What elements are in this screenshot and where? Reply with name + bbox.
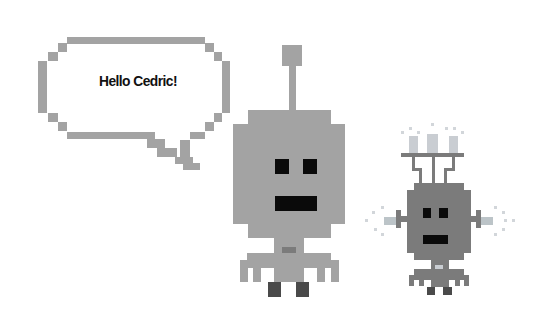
left-eye bbox=[275, 159, 289, 174]
antenna-wire bbox=[419, 168, 422, 183]
antenna-tip-center bbox=[427, 134, 438, 153]
left-foot bbox=[427, 287, 435, 295]
bubble-right-edge bbox=[222, 61, 230, 113]
bubble-tail bbox=[183, 163, 200, 170]
head-bottom bbox=[248, 223, 331, 238]
sparkle bbox=[401, 131, 404, 134]
arms bbox=[247, 253, 331, 268]
bubble-corner bbox=[48, 52, 58, 61]
sparkle bbox=[417, 131, 420, 134]
bubble-corner bbox=[214, 113, 222, 122]
sparkle bbox=[365, 219, 368, 222]
left-ear-connector bbox=[401, 216, 407, 222]
antenna-tip-right bbox=[449, 136, 458, 153]
antenna-tip-left bbox=[409, 136, 418, 153]
right-ear-glow bbox=[481, 217, 493, 225]
sparkle bbox=[445, 127, 448, 130]
sparkle bbox=[502, 211, 505, 214]
right-claw-inner bbox=[455, 280, 460, 286]
left-claw-inner bbox=[419, 280, 424, 286]
left-claw-outer bbox=[240, 260, 248, 282]
arms bbox=[414, 269, 464, 280]
bubble-corner bbox=[205, 43, 214, 52]
right-ear-connector bbox=[471, 216, 476, 222]
right-eye bbox=[439, 208, 448, 218]
bubble-tail bbox=[180, 140, 190, 157]
bubble-corner bbox=[58, 43, 67, 52]
sparkle bbox=[409, 127, 412, 130]
bubble-tail bbox=[157, 148, 177, 157]
antenna-wire bbox=[444, 168, 447, 183]
right-foot bbox=[296, 282, 309, 297]
sparkle bbox=[381, 206, 384, 209]
bubble-corner bbox=[214, 52, 222, 61]
bubble-tail bbox=[147, 139, 165, 148]
left-eye bbox=[423, 208, 431, 218]
bubble-top-edge bbox=[67, 37, 205, 44]
left-claw-outer bbox=[409, 275, 414, 286]
mouth bbox=[275, 196, 317, 211]
sparkle bbox=[381, 233, 384, 236]
head-bottom bbox=[414, 252, 464, 260]
bubble-bottom-edge bbox=[67, 132, 155, 139]
sparkle bbox=[374, 228, 377, 231]
right-eye bbox=[303, 159, 317, 174]
antenna-tip bbox=[282, 45, 302, 66]
sparkle bbox=[372, 211, 375, 214]
right-claw-outer bbox=[331, 260, 339, 282]
sparkle bbox=[431, 123, 434, 126]
sparkle bbox=[494, 206, 497, 209]
bubble-bottom-edge bbox=[190, 132, 205, 139]
sparkle bbox=[461, 131, 464, 134]
bubble-corner bbox=[58, 122, 67, 131]
bubble-left-edge bbox=[38, 61, 47, 113]
speech-text: Hello Cedric! bbox=[66, 72, 210, 89]
right-claw-inner bbox=[317, 268, 325, 282]
right-foot bbox=[443, 287, 452, 295]
sparkle bbox=[453, 127, 456, 130]
sparkle bbox=[494, 233, 497, 236]
sparkle bbox=[502, 228, 505, 231]
antenna-wire bbox=[432, 157, 435, 183]
sparkle bbox=[512, 219, 515, 222]
left-foot bbox=[268, 282, 281, 297]
right-claw-outer bbox=[464, 275, 469, 286]
left-ear-glow bbox=[384, 217, 396, 225]
bubble-corner bbox=[48, 113, 58, 122]
sparkle bbox=[504, 219, 507, 222]
head-top bbox=[248, 110, 331, 125]
mouth bbox=[423, 235, 448, 244]
bubble-corner bbox=[205, 122, 214, 131]
antenna-stick bbox=[289, 66, 296, 111]
left-claw-inner bbox=[253, 268, 261, 282]
